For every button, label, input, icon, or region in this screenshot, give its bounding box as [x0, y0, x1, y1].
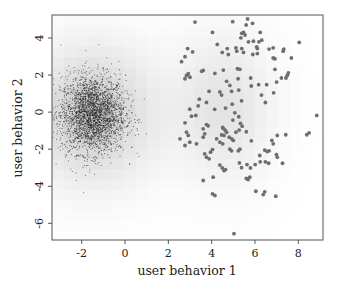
svg-text:8: 8 [295, 247, 302, 260]
svg-text:-2: -2 [33, 144, 46, 155]
svg-text:6: 6 [251, 247, 258, 260]
svg-text:2: 2 [165, 247, 172, 260]
x-axis-title: user behavior 1 [137, 263, 236, 278]
svg-text:0: 0 [122, 247, 129, 260]
y-axis-title: user behavior 2 [10, 78, 25, 177]
svg-text:-4: -4 [33, 181, 46, 192]
x-axis-ticks: -202468 [76, 240, 301, 260]
scatter-chart: -202468 -6-4-2024 user behavior 1 user b… [0, 0, 341, 286]
svg-text:-6: -6 [33, 218, 46, 229]
svg-text:-2: -2 [76, 247, 87, 260]
svg-text:0: 0 [33, 109, 46, 116]
svg-text:2: 2 [33, 72, 46, 79]
svg-text:4: 4 [33, 34, 46, 41]
svg-text:4: 4 [208, 247, 215, 260]
y-axis-ticks: -6-4-2024 [33, 34, 52, 228]
density-heatmap [52, 6, 327, 241]
